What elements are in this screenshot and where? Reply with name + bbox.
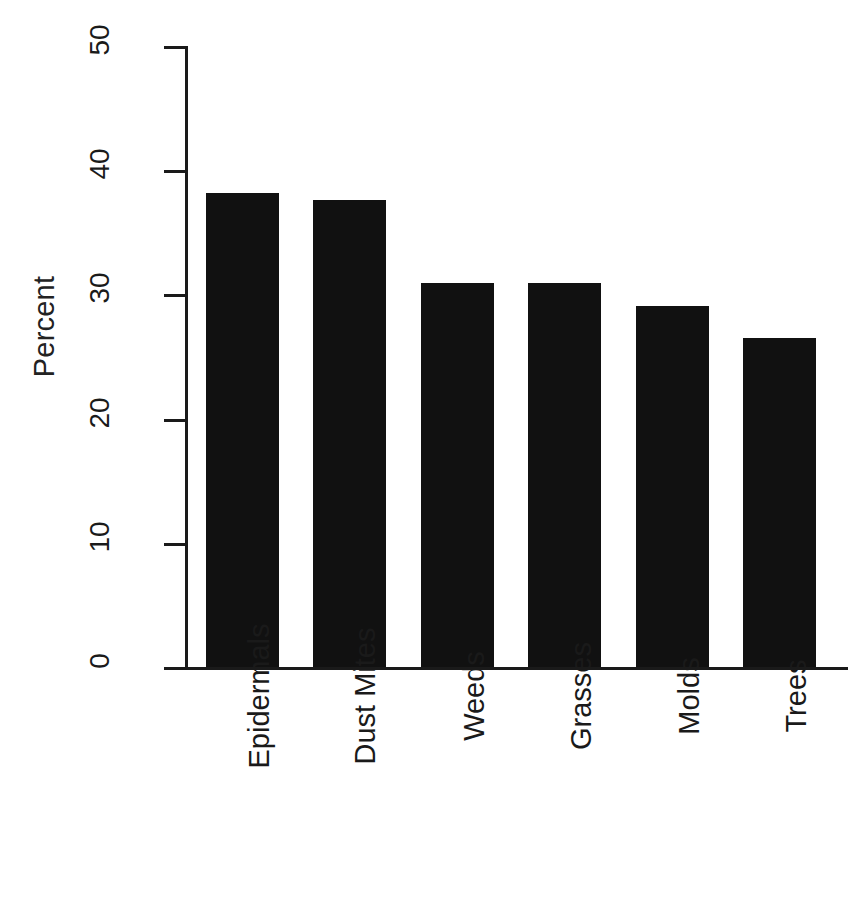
x-tick-label: Grasses: [528, 690, 601, 890]
x-tick-label: Dust Mites: [313, 690, 386, 890]
x-tick-label-text: Trees: [780, 659, 813, 732]
x-tick-label: Weeds: [421, 690, 494, 890]
bar-chart-figure: Percent 01020304050 EpidermalsDust Mites…: [0, 0, 848, 902]
x-tick-label: Trees: [743, 690, 816, 890]
x-tick-label-text: Grasses: [565, 642, 598, 750]
x-tick-label: Epidermals: [206, 690, 279, 890]
x-tick-label-text: Weeds: [458, 651, 491, 741]
x-tick-label-text: Epidermals: [243, 623, 276, 768]
x-axis-labels: EpidermalsDust MitesWeedsGrassesMoldsTre…: [0, 0, 848, 902]
x-tick-label: Molds: [636, 690, 709, 890]
x-tick-label-text: Molds: [673, 657, 706, 734]
x-tick-label-text: Dust Mites: [350, 628, 383, 765]
